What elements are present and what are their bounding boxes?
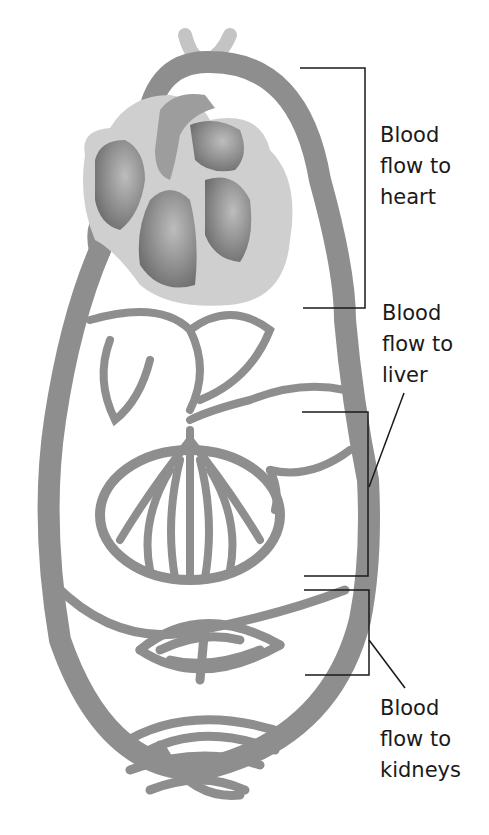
kidney-capillaries	[55, 585, 345, 680]
label-heart: Blood flow to heart	[380, 120, 451, 213]
heart	[83, 94, 293, 306]
label-kidneys: Blood flow to kidneys	[380, 693, 461, 786]
liver-capillaries	[90, 312, 350, 580]
label-liver: Blood flow to liver	[382, 298, 453, 391]
kidney-leader	[369, 640, 405, 688]
liver-leader	[369, 393, 404, 487]
